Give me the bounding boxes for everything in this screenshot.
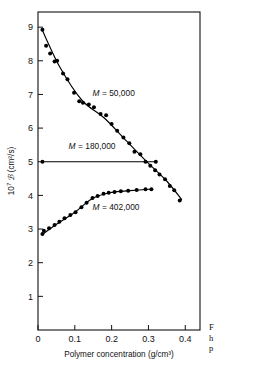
data-series — [40, 187, 153, 236]
data-point — [148, 164, 152, 168]
x-axis-title: Polymer concentration (g/cm³) — [64, 350, 174, 359]
data-point — [42, 229, 46, 233]
data-point — [44, 44, 48, 48]
plot-frame — [38, 12, 200, 330]
data-point — [121, 136, 125, 140]
data-point — [40, 28, 44, 32]
y-tick-label: 9 — [28, 22, 33, 32]
x-tick-label: 0.1 — [69, 334, 82, 344]
y-tick-label: 6 — [28, 123, 33, 133]
caption-line-3: p — [209, 343, 257, 354]
data-point — [153, 168, 157, 172]
data-series — [40, 28, 181, 203]
data-point — [53, 223, 57, 227]
data-point — [61, 72, 65, 76]
x-tick-label: 0.4 — [179, 334, 192, 344]
data-point — [81, 101, 85, 105]
data-point — [163, 177, 167, 181]
y-axis-tick-labels: 123456789 — [28, 22, 33, 301]
data-point — [113, 190, 117, 194]
series-annotation: M= 180,000 — [69, 141, 116, 151]
data-point — [40, 160, 44, 164]
data-point — [154, 160, 158, 164]
data-point — [110, 122, 114, 126]
figure-container: 00.10.20.30.4 123456789 M= 50,000M= 180,… — [0, 0, 257, 378]
data-point — [102, 192, 106, 196]
y-tick-label: 2 — [28, 258, 33, 268]
data-point — [144, 187, 148, 191]
data-point — [115, 129, 119, 133]
data-point — [85, 201, 89, 205]
data-point — [47, 226, 51, 230]
data-point — [172, 188, 176, 192]
data-point — [132, 150, 136, 154]
data-point — [87, 103, 91, 107]
data-point — [55, 59, 59, 63]
data-point — [126, 189, 130, 193]
data-point — [149, 187, 153, 191]
x-tick-label: 0.3 — [142, 334, 155, 344]
y-tick-label: 3 — [28, 224, 33, 234]
data-point — [72, 91, 76, 95]
data-point — [79, 205, 83, 209]
x-axis-tick-labels: 00.10.20.30.4 — [35, 334, 191, 344]
data-point — [48, 51, 52, 55]
data-point — [68, 213, 72, 217]
data-point — [107, 191, 111, 195]
caption-line-1: F — [209, 322, 257, 333]
data-series — [40, 160, 157, 164]
x-tick-label: 0 — [35, 334, 40, 344]
x-tick-label: 0.2 — [105, 334, 118, 344]
data-point — [65, 77, 69, 81]
y-tick-label: 1 — [28, 292, 33, 302]
y-tick-label: 7 — [28, 90, 33, 100]
data-point — [57, 220, 61, 224]
y-axis-title: 107ℬ(cm²/s) — [6, 147, 16, 196]
caption-line-2: h — [209, 333, 257, 344]
series-annotation: M= 402,000 — [92, 202, 139, 212]
data-point — [138, 152, 142, 156]
figure-caption: F h p — [209, 322, 257, 354]
series-annotation: M= 50,000 — [92, 88, 135, 98]
data-point — [90, 196, 94, 200]
data-point — [99, 112, 103, 116]
x-axis-ticks — [38, 325, 185, 330]
data-point — [92, 105, 96, 109]
data-point — [63, 216, 67, 220]
data-point — [104, 113, 108, 117]
data-point — [77, 99, 81, 103]
data-point — [158, 173, 162, 177]
y-tick-label: 4 — [28, 191, 33, 201]
data-point — [135, 188, 139, 192]
data-point — [96, 194, 100, 198]
data-point — [178, 198, 182, 202]
data-point — [119, 189, 123, 193]
data-point — [168, 184, 172, 188]
data-point — [127, 141, 131, 145]
y-tick-label: 5 — [28, 157, 33, 167]
data-point — [74, 210, 78, 214]
y-tick-label: 8 — [28, 56, 33, 66]
